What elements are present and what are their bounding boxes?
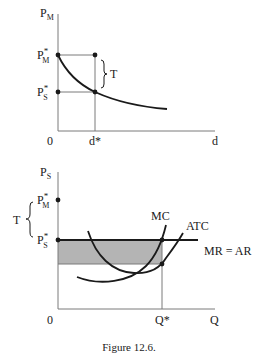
bottom-ps-axis-dot — [56, 238, 61, 243]
bottom-t-label: T — [13, 213, 21, 227]
top-t-brace — [101, 60, 107, 88]
mr-ar-label: MR = AR — [204, 244, 251, 258]
top-x-axis-title: d — [212, 134, 218, 148]
bottom-chart: T PS P*M P*S MC ATC MR = AR 0 Q* Q — [13, 165, 251, 327]
bottom-x-axis-title: Q — [210, 313, 219, 327]
top-chart: T PM P*M P*S 0 d* d — [37, 6, 218, 148]
bottom-y-axis-title: PS — [40, 165, 51, 181]
atc-label: ATC — [186, 219, 209, 233]
bottom-pm-star-label: P*M — [37, 191, 49, 210]
top-demand-curve — [58, 55, 167, 109]
top-pm-dstar-dot — [93, 53, 98, 58]
top-pm-star-label: P*M — [37, 46, 49, 65]
top-y-axis-title: PM — [40, 6, 54, 22]
bottom-origin-label: 0 — [47, 313, 53, 327]
bottom-pm-axis-dot — [56, 198, 61, 203]
mc-label: MC — [151, 209, 170, 223]
top-pm-axis-dot — [56, 53, 61, 58]
top-origin-label: 0 — [47, 134, 53, 148]
bottom-qstar-label: Q* — [155, 313, 170, 327]
top-ps-dstar-dot — [93, 90, 98, 95]
figure-canvas: T PM P*M P*S 0 d* d T — [0, 0, 258, 364]
atc-at-qstar-dot — [160, 262, 165, 267]
bottom-ps-star-label: P*S — [37, 231, 49, 250]
profit-shaded-region — [58, 240, 162, 264]
figure-caption: Figure 12.6. — [102, 341, 156, 353]
top-dstar-label: d* — [89, 134, 101, 148]
top-ps-axis-dot — [56, 90, 61, 95]
top-ps-star-label: P*S — [37, 83, 49, 102]
mc-mr-intersection-dot — [160, 238, 165, 243]
bottom-t-brace — [26, 202, 33, 237]
top-t-label: T — [110, 67, 118, 81]
